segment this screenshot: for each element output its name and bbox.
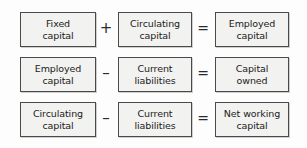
operator-symbol: + [100, 21, 113, 36]
operator-plus-icon: + [96, 12, 116, 47]
operator-minus-icon: – [96, 57, 116, 92]
term-box-left: Fixed capital [20, 12, 96, 47]
term-box-middle: Circulating capital [118, 12, 192, 47]
term-label: Capital owned [218, 63, 286, 86]
term-label: Current liabilities [121, 63, 189, 86]
term-label: Fixed capital [23, 18, 93, 41]
operator-symbol: = [197, 66, 209, 81]
term-label: Net working capital [218, 108, 286, 131]
operator-symbol: – [102, 66, 110, 81]
term-box-left: Employed capital [20, 57, 96, 92]
term-label: Current liabilities [121, 108, 189, 131]
operator-equals-icon: = [193, 57, 213, 92]
equation-diagram: Fixed capital + Circulating capital = Em… [0, 0, 307, 148]
term-label: Circulating capital [23, 108, 93, 131]
operator-equals-icon: = [193, 12, 213, 47]
term-box-middle: Current liabilities [118, 57, 192, 92]
equation-row: Fixed capital + Circulating capital = Em… [0, 12, 307, 48]
term-box-right: Capital owned [215, 57, 289, 92]
operator-minus-icon: – [96, 102, 116, 137]
operator-symbol: – [102, 111, 110, 126]
term-box-right: Employed capital [215, 12, 289, 47]
equation-row: Employed capital – Current liabilities =… [0, 57, 307, 93]
operator-equals-icon: = [193, 102, 213, 137]
term-label: Employed capital [218, 18, 286, 41]
term-box-left: Circulating capital [20, 102, 96, 137]
operator-symbol: = [197, 111, 209, 126]
operator-symbol: = [197, 21, 209, 36]
term-label: Circulating capital [121, 18, 189, 41]
term-box-middle: Current liabilities [118, 102, 192, 137]
equation-row: Circulating capital – Current liabilitie… [0, 102, 307, 138]
term-label: Employed capital [23, 63, 93, 86]
term-box-right: Net working capital [215, 102, 289, 137]
